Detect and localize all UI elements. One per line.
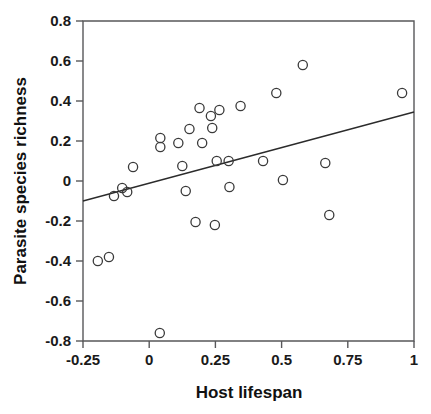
x-tick-label: 0.5 xyxy=(271,351,292,368)
y-tick-label: -0.6 xyxy=(45,292,71,309)
y-tick-label: -0.8 xyxy=(45,332,71,349)
x-tick-label: 1 xyxy=(410,351,418,368)
y-tick-label: 0.2 xyxy=(50,132,71,149)
scatter-point xyxy=(156,142,165,151)
scatter-point xyxy=(195,103,204,112)
scatter-point xyxy=(93,256,102,265)
scatter-point xyxy=(191,217,200,226)
scatter-point xyxy=(104,252,113,261)
scatter-point xyxy=(298,60,307,69)
scatter-point xyxy=(178,161,187,170)
scatter-point xyxy=(208,123,217,132)
plot-border xyxy=(83,21,414,341)
x-axis-ticks xyxy=(83,341,414,348)
scatter-point xyxy=(321,158,330,167)
axes-frame xyxy=(83,21,414,341)
trend-line xyxy=(83,112,414,201)
x-tick-label: -0.25 xyxy=(66,351,100,368)
scatter-point xyxy=(236,101,245,110)
scatter-point xyxy=(156,133,165,142)
y-tick-label: -0.4 xyxy=(45,252,72,269)
scatter-point xyxy=(198,138,207,147)
scatter-point xyxy=(225,182,234,191)
scatter-point xyxy=(272,88,281,97)
scatter-point xyxy=(174,138,183,147)
x-tick-label: 0.25 xyxy=(201,351,230,368)
scatter-plot-figure: -0.2500.250.50.751 -0.8-0.6-0.4-0.200.20… xyxy=(0,0,431,414)
plot-canvas: -0.2500.250.50.751 -0.8-0.6-0.4-0.200.20… xyxy=(0,0,431,414)
scatter-point xyxy=(258,156,267,165)
y-axis-tick-labels: -0.8-0.6-0.4-0.200.20.40.60.8 xyxy=(45,12,72,349)
scatter-point xyxy=(215,105,224,114)
regression-line xyxy=(83,112,414,201)
x-tick-label: 0.75 xyxy=(333,351,362,368)
y-tick-label: -0.2 xyxy=(45,212,71,229)
scatter-point xyxy=(212,156,221,165)
scatter-point xyxy=(325,210,334,219)
scatter-point xyxy=(155,328,164,337)
y-tick-label: 0.4 xyxy=(50,92,72,109)
x-tick-label: 0 xyxy=(145,351,153,368)
y-axis-title: Parasite species richness xyxy=(11,77,30,285)
y-axis-ticks xyxy=(76,21,83,341)
scatter-point xyxy=(206,111,215,120)
y-tick-label: 0 xyxy=(63,172,71,189)
scatter-point xyxy=(181,186,190,195)
x-axis-title: Host lifespan xyxy=(196,383,303,402)
scatter-point xyxy=(128,162,137,171)
scatter-point xyxy=(185,124,194,133)
scatter-point xyxy=(210,220,219,229)
scatter-point xyxy=(278,175,287,184)
y-tick-label: 0.6 xyxy=(50,52,71,69)
x-axis-tick-labels: -0.2500.250.50.751 xyxy=(66,351,418,368)
scatter-point xyxy=(397,88,406,97)
y-tick-label: 0.8 xyxy=(50,12,71,29)
data-points xyxy=(93,60,406,337)
